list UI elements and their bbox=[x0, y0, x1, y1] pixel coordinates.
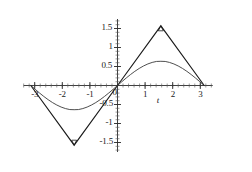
plot-canvas bbox=[0, 0, 252, 172]
y-tick-label--0.5: -0.5 bbox=[100, 98, 113, 108]
y-tick-label-0.5: 0.5 bbox=[102, 60, 113, 70]
x-axis-label: t bbox=[157, 95, 160, 105]
x-tick-label--3: -3 bbox=[31, 89, 38, 99]
plot-figure: -3-2-10123-1.5-1-0.50.511.5 t bbox=[0, 0, 252, 172]
x-tick-label--1: -1 bbox=[86, 89, 93, 99]
x-tick-label-0: 0 bbox=[113, 87, 117, 97]
y-tick-label--1.5: -1.5 bbox=[100, 136, 113, 146]
y-tick-label-1: 1 bbox=[109, 41, 113, 51]
x-tick-label-1: 1 bbox=[143, 89, 147, 99]
x-tick-label-3: 3 bbox=[198, 89, 202, 99]
y-tick-label-1.5: 1.5 bbox=[102, 22, 113, 32]
x-tick-label--2: -2 bbox=[59, 89, 66, 99]
y-tick-label--1: -1 bbox=[106, 117, 113, 127]
x-tick-label-2: 2 bbox=[171, 89, 175, 99]
